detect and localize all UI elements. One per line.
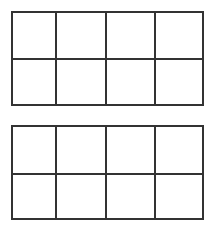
grid-horizontal-line <box>13 173 202 175</box>
grid-bottom <box>11 125 204 220</box>
grid-horizontal-line <box>13 58 202 60</box>
grid-top <box>11 11 204 106</box>
